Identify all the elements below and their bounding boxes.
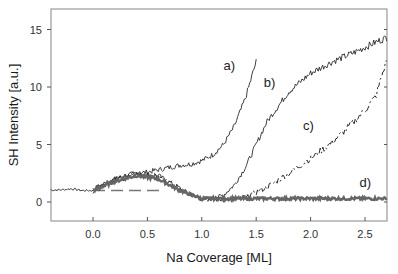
x-tick-label: 0.0 — [85, 228, 100, 240]
curve-label: a) — [224, 58, 236, 73]
x-tick-label: 2.5 — [357, 228, 372, 240]
curve-label: b) — [264, 75, 276, 90]
y-tick-label: 5 — [36, 139, 42, 151]
y-tick-label: 0 — [36, 196, 42, 208]
curve-label: c) — [303, 118, 314, 133]
y-axis-ticks: 051015 — [30, 24, 387, 209]
y-tick-label: 15 — [30, 24, 42, 36]
curves — [51, 36, 387, 202]
x-tick-label: 2.0 — [303, 228, 318, 240]
baseline-curve — [51, 188, 93, 191]
chart: 0.00.51.01.52.02.5 051015 a)b)c)d) Na Co… — [0, 0, 398, 274]
y-tick-label: 10 — [30, 81, 42, 93]
plot-frame — [51, 9, 387, 221]
curve-label: d) — [360, 175, 372, 190]
x-tick-label: 1.0 — [194, 228, 209, 240]
x-tick-label: 1.5 — [249, 228, 264, 240]
curve-a — [93, 59, 256, 190]
x-axis-title: Na Coverage [ML] — [166, 250, 272, 265]
plot-border — [51, 9, 387, 221]
curve-c — [93, 61, 387, 202]
curve-d — [93, 175, 386, 201]
x-tick-label: 0.5 — [140, 228, 155, 240]
y-axis-title: SH Intensity [a.u.] — [6, 64, 21, 167]
